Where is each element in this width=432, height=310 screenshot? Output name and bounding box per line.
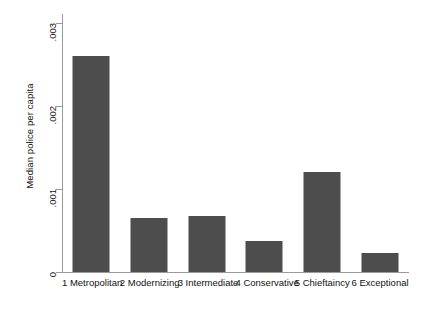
x-label-5: 5 Chieftaincy: [293, 277, 351, 288]
bar-3[interactable]: [188, 216, 225, 272]
bar-1[interactable]: [72, 56, 109, 272]
plot-area: [62, 14, 409, 272]
bar-slot-5: [293, 14, 351, 272]
x-label-1: 1 Metropolitan: [62, 277, 120, 288]
y-tick-label-0: 0: [47, 272, 58, 277]
x-label-2: 2 Modernizing: [120, 277, 178, 288]
x-label-4: 4 Conservative: [236, 277, 294, 288]
bar-slot-6: [351, 14, 409, 272]
bar-slot-2: [120, 14, 178, 272]
bar-5[interactable]: [304, 172, 341, 272]
x-axis-line: [62, 272, 409, 273]
y-axis-title: Median police per capita: [20, 0, 40, 272]
y-tick-label-2: .002: [47, 106, 58, 125]
bar-4[interactable]: [246, 241, 283, 272]
x-label-6: 6 Exceptional: [351, 277, 409, 288]
bar-slot-1: [62, 14, 120, 272]
x-label-3: 3 Intermediate: [178, 277, 236, 288]
bar-slot-3: [178, 14, 236, 272]
bar-chart: Median police per capita 0.001.002.003 1…: [0, 0, 432, 310]
bar-2[interactable]: [130, 218, 167, 272]
y-tick-label-1: .001: [47, 189, 58, 208]
y-tick-label-3: .003: [47, 23, 58, 42]
bar-slot-4: [236, 14, 294, 272]
bar-6[interactable]: [362, 253, 399, 272]
